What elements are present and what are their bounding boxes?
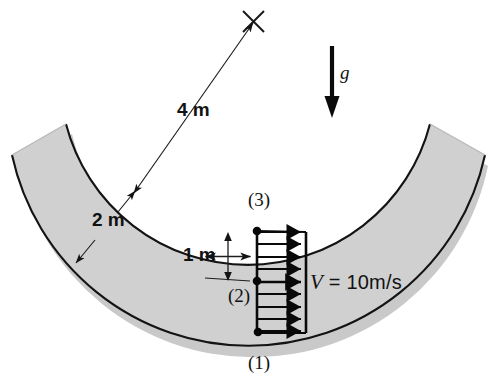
- station-point-2-dot: [253, 277, 262, 286]
- label-height-1m: 1 m: [183, 245, 216, 264]
- channel-body: [12, 124, 485, 346]
- label-station-2: (2): [228, 286, 250, 305]
- velocity-symbol: V: [310, 270, 323, 294]
- velocity-value: 10m/s: [346, 271, 401, 293]
- station-point-1-dot: [254, 328, 263, 337]
- station-point-3-dot: [253, 227, 262, 236]
- label-radius-4m: 4 m: [177, 100, 210, 119]
- label-width-2m: 2 m: [92, 210, 125, 229]
- velocity-equals: =: [329, 271, 341, 293]
- label-station-1: (1): [248, 353, 270, 372]
- label-velocity: V = 10m/s: [310, 272, 402, 293]
- label-station-3: (3): [248, 190, 270, 209]
- center-of-curvature-x-icon: [243, 11, 264, 32]
- figure-canvas: 4 m 2 m 1 m (3) (2) (1) g V = 10m/s: [0, 0, 503, 382]
- label-gravity-g: g: [340, 63, 350, 82]
- gravity-arrow: [325, 46, 340, 118]
